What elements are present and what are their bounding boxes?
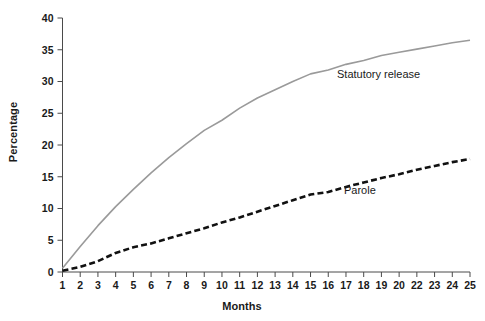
svg-text:0: 0 [48,266,54,278]
svg-text:23: 23 [429,279,441,291]
svg-text:2: 2 [77,279,83,291]
svg-text:1: 1 [60,279,66,291]
series-label-parole: Parole [344,184,376,196]
chart-plot-area: 0510152025303540 12345678910111213141516… [0,0,485,321]
svg-text:20: 20 [42,139,54,151]
svg-text:16: 16 [322,279,334,291]
svg-text:17: 17 [340,279,352,291]
svg-text:11: 11 [234,279,245,291]
svg-text:24: 24 [446,279,458,291]
svg-text:22: 22 [411,279,423,291]
svg-text:14: 14 [287,279,299,291]
svg-text:13: 13 [269,279,281,291]
svg-text:35: 35 [42,44,54,56]
svg-text:15: 15 [305,279,317,291]
series-line-parole [63,159,471,271]
svg-text:15: 15 [42,171,54,183]
y-axis: 0510152025303540 [42,12,63,278]
svg-text:25: 25 [464,279,476,291]
svg-text:7: 7 [166,279,172,291]
svg-text:40: 40 [42,12,54,24]
svg-text:5: 5 [48,234,54,246]
svg-text:30: 30 [42,75,54,87]
x-axis-title: Months [192,300,292,312]
svg-text:19: 19 [376,279,388,291]
svg-text:18: 18 [358,279,370,291]
svg-text:10: 10 [42,202,54,214]
x-axis: 123456789101112131415161718192022232425 [60,272,476,291]
chart-container: 0510152025303540 12345678910111213141516… [0,0,485,321]
svg-text:8: 8 [184,279,190,291]
svg-text:25: 25 [42,107,54,119]
svg-text:10: 10 [216,279,228,291]
svg-text:6: 6 [148,279,154,291]
series-label-statutory-release: Statutory release [337,68,420,80]
y-axis-title: Percentage [7,92,19,172]
svg-text:20: 20 [393,279,405,291]
svg-text:9: 9 [201,279,207,291]
svg-text:5: 5 [130,279,136,291]
svg-text:12: 12 [252,279,264,291]
svg-text:4: 4 [113,279,119,291]
svg-text:3: 3 [95,279,101,291]
